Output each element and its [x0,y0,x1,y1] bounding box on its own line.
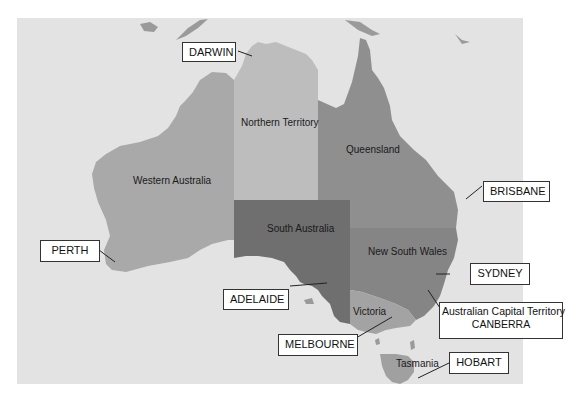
canberra-line1: Australian Capital Territory [442,305,560,318]
label-victoria: Victoria [353,306,386,317]
label-northern-territory: Northern Territory [241,117,319,128]
island-kangaroo [304,298,314,304]
island-png [345,20,380,36]
island-timor [140,22,158,32]
island-indonesia [176,19,208,40]
city-canberra: Australian Capital Territory CANBERRA [439,302,563,339]
label-south-australia: South Australia [267,223,334,234]
city-perth: PERTH [40,240,100,262]
city-melbourne: MELBOURNE [278,334,358,356]
city-sydney: SYDNEY [470,263,530,285]
label-western-australia: Western Australia [133,175,211,186]
region-western-australia [92,72,234,272]
island-flinders [410,340,415,350]
city-darwin: DARWIN [182,42,236,62]
region-queensland [318,38,458,228]
label-queensland: Queensland [346,144,400,155]
city-hobart: HOBART [449,352,509,374]
city-brisbane: BRISBANE [483,181,550,202]
canberra-line2: CANBERRA [442,318,560,331]
city-adelaide: ADELAIDE [223,289,289,310]
island-bass [375,338,380,345]
island-small [455,34,470,44]
label-new-south-wales: New South Wales [368,246,447,257]
label-tasmania: Tasmania [396,358,439,369]
